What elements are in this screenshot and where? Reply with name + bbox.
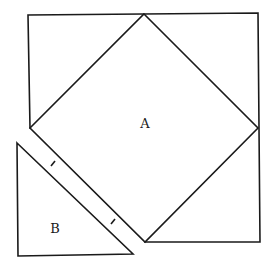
geometry-diagram: A B [0, 0, 276, 268]
tick-mark-upper [51, 161, 55, 166]
label-a: A [139, 116, 150, 131]
tick-mark-lower [111, 219, 115, 224]
triangle-b [17, 143, 133, 256]
label-b: B [50, 221, 60, 236]
